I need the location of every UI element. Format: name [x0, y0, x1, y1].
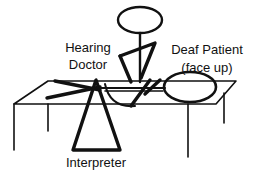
label-doctor: Doctor — [69, 57, 108, 72]
exam-room-diagram: Hearing Doctor Deaf Patient (face up) In… — [0, 0, 256, 178]
doctor-figure — [118, 7, 162, 82]
label-interpreter: Interpreter — [66, 155, 127, 170]
exam-table — [14, 81, 236, 157]
label-deaf-patient: Deaf Patient — [171, 42, 243, 57]
doctor-head — [118, 7, 162, 33]
label-hearing: Hearing — [65, 40, 111, 55]
label-face-up: (face up) — [181, 60, 232, 75]
patient-figure — [47, 72, 216, 106]
patient-head — [164, 72, 216, 102]
doctor-leg — [120, 56, 131, 82]
